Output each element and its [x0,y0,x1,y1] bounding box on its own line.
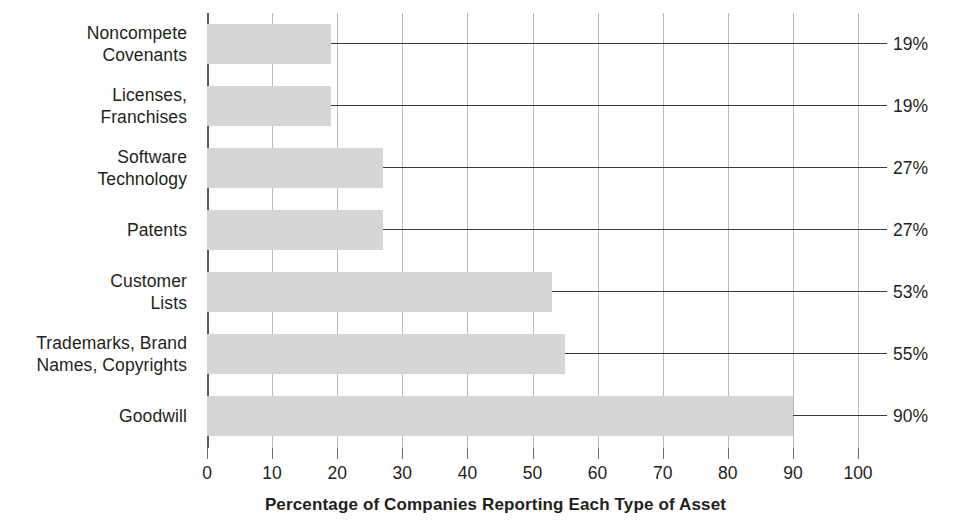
x-tick-label: 40 [458,462,477,484]
leader-line [383,229,887,230]
x-tick [207,448,208,459]
x-tick-label: 50 [523,462,542,484]
bar-row [207,385,858,447]
x-tick-label: 60 [588,462,607,484]
category-label-line: Lists [0,292,187,314]
category-label-line: Licenses, [0,84,187,106]
category-label: CustomerLists [0,270,187,314]
bar-row [207,75,858,137]
category-label-line: Names, Copyrights [0,354,187,376]
x-tick [337,448,338,459]
bar-row [207,137,858,199]
bar [207,86,331,126]
leader-line [552,291,887,292]
x-tick-label: 70 [653,462,672,484]
x-axis-title: Percentage of Companies Reporting Each T… [0,495,959,515]
bar-row [207,199,858,261]
value-label: 19% [893,95,928,117]
category-label-line: Goodwill [0,405,187,427]
x-tick-label: 90 [783,462,802,484]
x-tick [858,448,859,459]
bar [207,24,331,64]
x-tick [728,448,729,459]
leader-line [565,353,887,354]
category-label-line: Patents [0,219,187,241]
category-label: SoftwareTechnology [0,146,187,190]
x-tick-label: 10 [262,462,281,484]
gridline-100 [858,13,859,448]
category-axis-labels: NoncompeteCovenantsLicenses,FranchisesSo… [0,13,197,448]
bar [207,210,383,250]
x-axis-title-text: Percentage of Companies Reporting Each T… [265,495,726,515]
category-label-line: Customer [0,270,187,292]
x-tick [467,448,468,459]
category-label-line: Trademarks, Brand [0,332,187,354]
bar [207,396,793,436]
leader-line [793,415,887,416]
value-label: 27% [893,219,928,241]
bar-row [207,323,858,385]
category-label-line: Noncompete [0,22,187,44]
category-label: Trademarks, BrandNames, Copyrights [0,332,187,376]
x-tick [533,448,534,459]
x-tick [663,448,664,459]
x-tick [793,448,794,459]
value-label: 90% [893,405,928,427]
x-tick [272,448,273,459]
bar [207,334,565,374]
value-labels: 19%19%27%27%53%55%90% [893,13,959,448]
x-tick-label: 30 [393,462,412,484]
leader-line [331,105,887,106]
x-tick [402,448,403,459]
x-tick-label: 20 [327,462,346,484]
bar-row [207,261,858,323]
leader-line [383,167,887,168]
x-tick-label: 100 [843,462,872,484]
category-label-line: Software [0,146,187,168]
value-label: 55% [893,343,928,365]
value-label: 19% [893,33,928,55]
bar [207,272,552,312]
category-label-line: Franchises [0,106,187,128]
x-tick [598,448,599,459]
x-tick-label: 0 [202,462,212,484]
bar-row [207,13,858,75]
bars-layer [207,13,858,448]
bar-chart: NoncompeteCovenantsLicenses,FranchisesSo… [0,0,959,527]
x-tick-label: 80 [718,462,737,484]
category-label-line: Technology [0,168,187,190]
leader-line [331,43,887,44]
category-label: Licenses,Franchises [0,84,187,128]
category-label: Patents [0,219,187,241]
bar [207,148,383,188]
category-label-line: Covenants [0,44,187,66]
value-label: 53% [893,281,928,303]
category-label: NoncompeteCovenants [0,22,187,66]
value-label: 27% [893,157,928,179]
category-label: Goodwill [0,405,187,427]
